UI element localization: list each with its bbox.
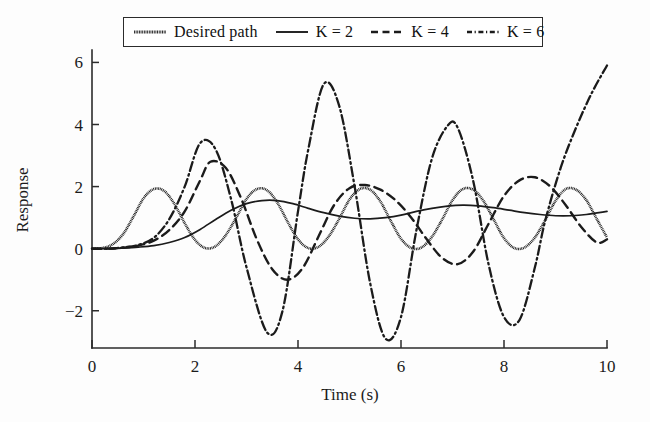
y-axis-title: Response bbox=[13, 167, 32, 232]
legend-item-k2: K = 2 bbox=[275, 23, 354, 41]
legend-swatch-k6 bbox=[466, 26, 500, 38]
x-tick-label: 4 bbox=[294, 357, 303, 376]
x-tick-label: 10 bbox=[599, 357, 616, 376]
x-tick-label: 0 bbox=[88, 357, 97, 376]
legend-label-desired-path: Desired path bbox=[174, 23, 258, 41]
y-tick-label: 4 bbox=[75, 116, 84, 135]
legend-item-desired-path: Desired path bbox=[133, 23, 258, 41]
x-axis-title: Time (s) bbox=[321, 385, 378, 404]
y-tick-label: 2 bbox=[75, 178, 84, 197]
legend-label-k6: K = 6 bbox=[507, 23, 545, 41]
axis-ticks bbox=[92, 62, 607, 348]
y-tick-label: 0 bbox=[75, 240, 84, 259]
legend-item-k4: K = 4 bbox=[370, 23, 449, 41]
series-k6 bbox=[92, 66, 607, 341]
plot-area: −202460246810 Time (s) Response bbox=[0, 0, 650, 422]
y-tick-label: 6 bbox=[75, 53, 84, 72]
legend-item-k6: K = 6 bbox=[466, 23, 545, 41]
y-tick-label: −2 bbox=[65, 302, 83, 321]
legend-swatch-k4 bbox=[370, 26, 404, 38]
legend-swatch-k2 bbox=[275, 26, 309, 38]
legend-swatch-desired-path bbox=[133, 26, 167, 38]
x-tick-label: 8 bbox=[500, 357, 509, 376]
chart-legend: Desired path K = 2 K = 4 K = 6 bbox=[123, 17, 543, 47]
legend-label-k2: K = 2 bbox=[316, 23, 354, 41]
x-tick-label: 2 bbox=[191, 357, 200, 376]
x-tick-label: 6 bbox=[397, 357, 406, 376]
legend-label-k4: K = 4 bbox=[411, 23, 449, 41]
chart-figure: −202460246810 Time (s) Response Desired … bbox=[0, 0, 650, 422]
series-k2 bbox=[92, 200, 607, 249]
